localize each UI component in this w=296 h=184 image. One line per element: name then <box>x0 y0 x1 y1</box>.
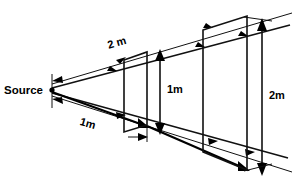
source-dot <box>49 87 54 92</box>
lower-outer-ray <box>52 96 292 172</box>
source-dim-arrow-upper <box>52 76 63 83</box>
far-height-ext-top <box>244 17 272 21</box>
upper-ray-group <box>52 13 292 88</box>
source-dim-arrow-lower <box>52 97 63 104</box>
near-screen-height-label: 1m <box>167 83 183 95</box>
source-point-group <box>49 74 63 108</box>
far-screen-outline <box>203 16 247 170</box>
upper-inner-ray <box>52 25 290 88</box>
far-screen <box>203 16 247 170</box>
upper-outer-ray <box>52 13 292 84</box>
inverse-square-law-figure: Source 2 m 1m 1m 2m <box>0 0 296 184</box>
upper-distance-label: 2 m <box>106 34 128 51</box>
far-screen-height-label: 2m <box>269 89 285 101</box>
far-height-arrow-bottom <box>257 163 267 176</box>
lower-distance-label: 1m <box>79 115 98 131</box>
ray-source-to-near-bottom <box>52 92 146 126</box>
source-label: Source <box>4 84 43 96</box>
diagram-canvas: Source 2 m 1m 1m 2m <box>0 0 296 184</box>
